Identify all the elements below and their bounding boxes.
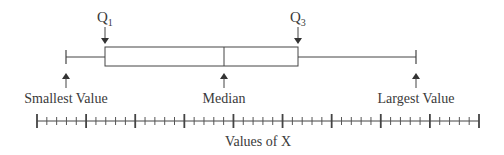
median-label: Median	[203, 91, 246, 106]
q3-label: Q3	[290, 9, 306, 28]
box-plot-svg: Q1 Q3 Smallest Value Median Largest Valu…	[0, 0, 504, 155]
largest-value-label: Largest Value	[378, 91, 455, 106]
q3-arrow-icon	[294, 27, 302, 44]
axis-title: Values of X	[225, 134, 291, 149]
q1-label: Q1	[97, 9, 113, 28]
left-whisker	[66, 50, 105, 64]
smallest-arrow-icon	[62, 73, 70, 88]
x-axis	[37, 114, 479, 128]
right-whisker	[298, 50, 416, 64]
q1-arrow-icon	[101, 27, 109, 44]
iqr-box	[105, 47, 298, 66]
smallest-value-label: Smallest Value	[24, 91, 107, 106]
largest-arrow-icon	[412, 73, 420, 88]
median-arrow-icon	[220, 73, 228, 88]
box-plot-diagram: Q1 Q3 Smallest Value Median Largest Valu…	[0, 0, 504, 155]
